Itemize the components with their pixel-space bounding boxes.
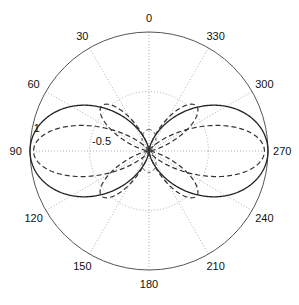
angle-label: 120 (24, 212, 42, 224)
angle-label: 60 (27, 78, 39, 90)
angle-label: 300 (255, 78, 273, 90)
angle-label: 330 (206, 30, 224, 42)
angle-label: 210 (206, 260, 224, 272)
angle-label: 0 (146, 12, 152, 24)
radial-label: 1 (34, 122, 40, 134)
angle-label: 270 (273, 145, 291, 157)
angle-label: 30 (76, 30, 88, 42)
data-curves (30, 104, 268, 198)
polar-chart: 0306090120150180210240270300330 1-0.5 (0, 0, 299, 305)
angle-label: 150 (73, 260, 91, 272)
angle-label: 240 (255, 212, 273, 224)
angle-label: 90 (10, 145, 22, 157)
radial-label: -0.5 (92, 135, 111, 147)
angle-label: 180 (140, 278, 158, 290)
